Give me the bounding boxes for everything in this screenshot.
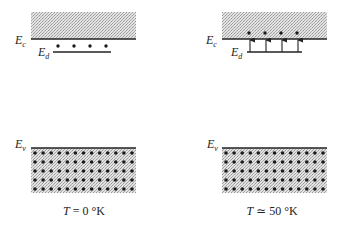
- electron-dot: [49, 169, 53, 173]
- electron-dot: [66, 169, 70, 173]
- electron-dot: [122, 187, 126, 191]
- electron-dot: [114, 169, 118, 173]
- electron-dot: [240, 169, 244, 173]
- electron-dot: [33, 178, 37, 182]
- electron-dot: [98, 151, 102, 155]
- electron-dot: [281, 187, 285, 191]
- electron-dot: [305, 151, 309, 155]
- caption-t0: T = 0 °K: [63, 204, 105, 218]
- electron-dot: [265, 151, 269, 155]
- electron-dot: [74, 151, 78, 155]
- electron-dot: [49, 178, 53, 182]
- electron-dot: [74, 160, 78, 164]
- electron-dot: [90, 169, 94, 173]
- donor-electrons: [56, 44, 107, 47]
- electron-dot: [305, 169, 309, 173]
- electron-dot: [114, 178, 118, 182]
- electron-dot: [257, 178, 261, 182]
- electron-dot: [321, 178, 325, 182]
- electron-dot: [58, 169, 62, 173]
- electron-dot: [82, 151, 86, 155]
- electron-dot: [90, 187, 94, 191]
- electron-dot: [130, 178, 134, 182]
- excitation-arrows: [250, 40, 298, 52]
- electron-dot: [82, 160, 86, 164]
- conduction-band: [31, 12, 136, 39]
- electron-dot: [82, 169, 86, 173]
- electron-dot: [265, 187, 269, 191]
- ev-label: Ev: [14, 137, 26, 153]
- electron-dot: [88, 44, 91, 47]
- electron-dot: [232, 151, 236, 155]
- electron-dot: [114, 160, 118, 164]
- electron-dot: [122, 160, 126, 164]
- electron-dot: [232, 160, 236, 164]
- electron-dot: [130, 187, 134, 191]
- electron-dot: [313, 169, 317, 173]
- electron-dot: [104, 44, 107, 47]
- electron-dot: [49, 187, 53, 191]
- electron-dot: [297, 169, 301, 173]
- electron-dot: [224, 178, 228, 182]
- electron-dot: [257, 169, 261, 173]
- electron-dot: [279, 31, 282, 34]
- electron-dot: [297, 187, 301, 191]
- electron-dot: [106, 151, 110, 155]
- electron-dot: [321, 151, 325, 155]
- electron-dot: [321, 169, 325, 173]
- electron-dot: [321, 187, 325, 191]
- electron-dot: [297, 178, 301, 182]
- electron-dot: [56, 44, 59, 47]
- electron-dot: [240, 151, 244, 155]
- electron-dot: [41, 187, 45, 191]
- electron-dot: [122, 169, 126, 173]
- electron-dot: [289, 151, 293, 155]
- electron-dot: [313, 151, 317, 155]
- electron-dot: [41, 169, 45, 173]
- electron-dot: [273, 169, 277, 173]
- electron-dot: [106, 169, 110, 173]
- electron-dot: [58, 151, 62, 155]
- electron-dot: [106, 160, 110, 164]
- electron-dot: [130, 151, 134, 155]
- electron-dot: [289, 160, 293, 164]
- electron-dot: [72, 44, 75, 47]
- electron-dot: [263, 31, 266, 34]
- electron-dot: [98, 160, 102, 164]
- ed-label: Ed: [230, 45, 243, 61]
- electron-dot: [82, 187, 86, 191]
- electron-dot: [66, 160, 70, 164]
- electron-dot: [122, 178, 126, 182]
- ec-label: Ec: [14, 33, 26, 49]
- electron-dot: [281, 160, 285, 164]
- electron-dot: [232, 178, 236, 182]
- electron-dot: [232, 187, 236, 191]
- electron-dot: [281, 178, 285, 182]
- electron-dot: [224, 151, 228, 155]
- electron-dot: [281, 169, 285, 173]
- electron-dot: [90, 151, 94, 155]
- electron-dot: [265, 160, 269, 164]
- electron-dot: [249, 178, 253, 182]
- electron-dot: [66, 178, 70, 182]
- electron-dot: [82, 178, 86, 182]
- electron-dot: [273, 160, 277, 164]
- electron-dot: [74, 169, 78, 173]
- electron-dot: [313, 178, 317, 182]
- electron-dot: [41, 151, 45, 155]
- electron-dot: [114, 151, 118, 155]
- panel-t50: Ec Ed Ev T ≃ 50 °K: [205, 12, 327, 218]
- electron-dot: [273, 187, 277, 191]
- electron-dot: [66, 187, 70, 191]
- electron-dot: [249, 151, 253, 155]
- electron-dot: [66, 151, 70, 155]
- electron-dot: [305, 187, 309, 191]
- electron-dot: [58, 187, 62, 191]
- electron-dot: [305, 160, 309, 164]
- electron-dot: [122, 151, 126, 155]
- electron-dot: [232, 169, 236, 173]
- electron-dot: [106, 178, 110, 182]
- ec-label: Ec: [205, 33, 217, 49]
- electron-dot: [58, 178, 62, 182]
- electron-dot: [289, 187, 293, 191]
